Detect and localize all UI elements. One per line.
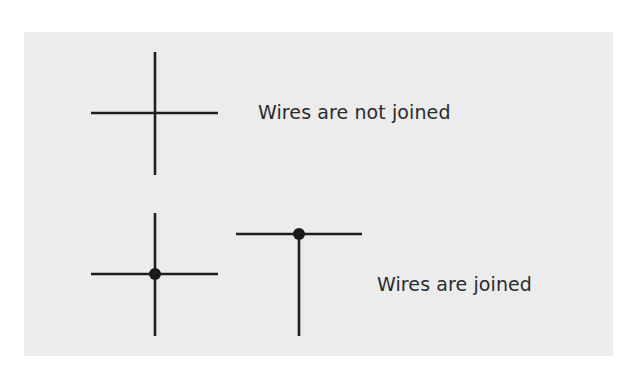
wire-t-junction-joined-icon bbox=[236, 234, 362, 336]
wire-crossing-not-joined-icon bbox=[91, 52, 218, 175]
junction-dot-icon bbox=[149, 268, 161, 280]
label-wires-not-joined: Wires are not joined bbox=[258, 101, 451, 123]
wire-symbols-diagram bbox=[0, 0, 638, 368]
label-wires-joined: Wires are joined bbox=[377, 273, 532, 295]
junction-dot-icon bbox=[293, 228, 305, 240]
